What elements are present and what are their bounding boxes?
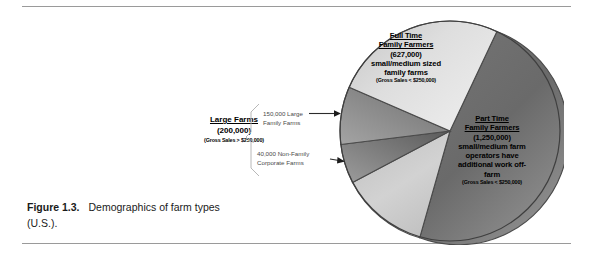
callout-large-line-1: 150,000 Large <box>263 110 303 119</box>
pie-label-part-time: Part Time Family Farmers (1,250,000) sma… <box>440 114 544 185</box>
part-time-line-5: operators have <box>440 151 544 160</box>
full-time-line-5: family farms <box>352 68 460 77</box>
part-time-line-6: additional work off- <box>440 160 544 169</box>
callout-large-line-2: Family Farms <box>263 119 303 128</box>
full-time-line-2: Family Farmers <box>352 40 460 49</box>
figure-container: Full Time Family Farmers (627,000) small… <box>0 0 593 255</box>
full-time-gross-sales-note: (Gross Sales < $250,000) <box>352 77 460 84</box>
pie-label-full-time: Full Time Family Farmers (627,000) small… <box>352 31 460 84</box>
full-time-line-4: small/medium sized <box>352 59 460 68</box>
part-time-count: (1,250,000) <box>440 133 544 142</box>
callout-non-family-corporate-farms: 40,000 Non-Family Corporate Farms <box>257 150 309 168</box>
large-farms-gross-sales-note: (Gross Sales > $250,000) <box>186 137 282 144</box>
callout-nonfamily-line-2: Corporate Farms <box>257 159 309 168</box>
figure-caption-number: Figure 1.3. <box>27 201 80 213</box>
part-time-line-2: Family Farmers <box>440 123 544 132</box>
part-time-line-4: small/medium farm <box>440 142 544 151</box>
callout-large-family-farms: 150,000 Large Family Farms <box>263 110 303 128</box>
top-divider-rule <box>22 6 571 7</box>
full-time-count: (627,000) <box>352 50 460 59</box>
full-time-line-1: Full Time <box>352 31 460 40</box>
figure-caption: Figure 1.3.Demographics of farm types (U… <box>27 199 242 232</box>
part-time-line-7: farm <box>440 170 544 179</box>
part-time-gross-sales-note: (Gross Sales < $250,000) <box>440 179 544 186</box>
part-time-line-1: Part Time <box>440 114 544 123</box>
callout-nonfamily-line-1: 40,000 Non-Family <box>257 150 309 159</box>
